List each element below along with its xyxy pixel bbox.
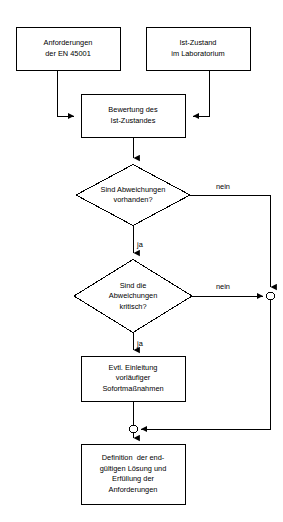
edge-anforderungen-to-bewertung <box>58 71 75 117</box>
junction-right-node <box>267 292 275 300</box>
junction-bottom-node <box>130 425 138 433</box>
flowchart-diagram: Anforderungen der EN 45001 Ist-Zustand i… <box>0 0 283 522</box>
node-abweichungen-vorhanden-diamond <box>76 165 190 226</box>
node-bewertung-box <box>82 95 186 138</box>
edge-label-ja-1: ja <box>137 240 143 249</box>
edge-vorhanden-nein-to-junction-right <box>190 195 271 287</box>
node-abweichungen-kritisch-diamond <box>74 260 192 333</box>
edge-label-nein-2: nein <box>216 282 230 291</box>
node-ist-zustand-box <box>147 28 251 71</box>
edge-label-ja-2: ja <box>137 339 143 348</box>
edge-ist-zustand-to-bewertung <box>193 71 210 117</box>
node-definition-loesung-box <box>82 445 186 505</box>
edge-label-nein-1: nein <box>216 182 230 191</box>
node-sofortmassnahmen-box <box>82 357 186 402</box>
flowchart-canvas <box>0 0 283 522</box>
node-anforderungen-box <box>17 28 121 71</box>
